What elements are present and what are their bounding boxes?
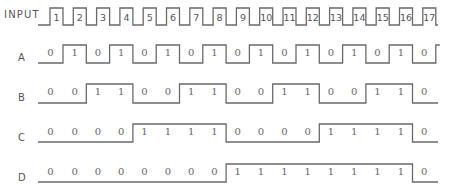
pulse-number: 3 [100,12,106,23]
bit-value: 1 [304,86,310,97]
pulse-number: 4 [123,12,129,23]
row-label: A [18,52,25,63]
bit-value: 0 [421,86,427,97]
bit-value: 0 [95,166,101,177]
bit-value: 1 [398,126,404,137]
row-label: C [18,132,25,143]
bit-value: 1 [165,47,171,58]
bit-value: 1 [165,126,171,137]
bit-value: 0 [118,126,124,137]
bit-value: 0 [211,166,217,177]
bit-value: 0 [47,47,53,58]
bit-value: 1 [398,86,404,97]
pulse-number: 11 [283,12,295,23]
timing-diagram: INPUT 1234567891011121314151617 A0101010… [0,0,451,193]
bit-value: 1 [374,166,380,177]
bit-value: 1 [258,47,264,58]
bit-value: 1 [188,86,194,97]
bit-value: 1 [374,86,380,97]
bit-value: 0 [165,86,171,97]
bit-value: 1 [351,166,357,177]
bit-value: 0 [258,86,264,97]
bit-value: 0 [165,166,171,177]
bit-value: 0 [328,47,334,58]
row-label: D [18,172,26,183]
pulse-number: 10 [260,12,272,23]
bit-value: 0 [71,166,77,177]
bit-value: 1 [281,86,287,97]
bit-value: 1 [281,166,287,177]
bit-value: 0 [95,126,101,137]
bit-value: 1 [118,47,124,58]
bit-value: 0 [71,126,77,137]
pulse-number: 12 [307,12,319,23]
bit-value: 1 [118,86,124,97]
input-clock-row: INPUT 1234567891011121314151617 [4,8,438,25]
bit-value: 0 [304,126,310,137]
bit-value: 1 [328,166,334,177]
bit-value: 0 [47,126,53,137]
bit-value: 0 [421,126,427,137]
pulse-number: 5 [147,12,153,23]
bit-value: 0 [235,126,241,137]
bit-value: 1 [141,126,147,137]
bit-value: 0 [421,47,427,58]
bit-value: 1 [211,86,217,97]
bit-value: 0 [235,86,241,97]
bit-value: 1 [71,47,77,58]
bit-value: 0 [235,47,241,58]
output-rows: A01010101010101010B00110011001100110C000… [18,45,440,183]
pulse-number: 17 [423,12,435,23]
bit-value: 0 [258,126,264,137]
bit-value: 0 [71,86,77,97]
row-a: A01010101010101010 [18,45,440,63]
bit-value: 0 [188,47,194,58]
bit-value: 1 [328,126,334,137]
bit-value: 0 [118,166,124,177]
bit-value: 0 [188,166,194,177]
bit-value: 0 [281,126,287,137]
bit-value: 1 [211,47,217,58]
pulse-number: 2 [77,12,83,23]
bit-value: 1 [235,166,241,177]
bit-value: 1 [258,166,264,177]
bit-value: 1 [95,86,101,97]
pulse-number: 1 [53,12,59,23]
bit-value: 1 [398,47,404,58]
pulse-number: 13 [330,12,342,23]
bit-value: 0 [95,47,101,58]
pulse-numbers: 1234567891011121314151617 [53,12,435,23]
pulse-number: 6 [170,12,176,23]
pulse-number: 14 [353,12,365,23]
bit-value: 1 [304,166,310,177]
input-label: INPUT [4,9,40,20]
pulse-number: 7 [193,12,199,23]
row-d: D00000000111111110 [18,164,438,183]
pulse-number: 9 [240,12,246,23]
bit-value: 1 [351,47,357,58]
row-label: B [18,92,25,103]
bit-value: 1 [351,126,357,137]
bit-value: 0 [328,86,334,97]
bit-value: 1 [374,126,380,137]
bit-value: 1 [398,166,404,177]
bit-value: 1 [304,47,310,58]
bit-value: 0 [47,166,53,177]
pulse-number: 8 [217,12,223,23]
row-b: B00110011001100110 [18,84,438,103]
row-c: C00001111000011110 [18,124,438,143]
bit-value: 0 [281,47,287,58]
bit-value: 0 [141,47,147,58]
bit-value: 0 [141,166,147,177]
bit-value: 1 [188,126,194,137]
bit-value: 0 [351,86,357,97]
bit-value: 1 [211,126,217,137]
pulse-number: 16 [400,12,412,23]
bit-value: 0 [374,47,380,58]
bit-value: 0 [421,166,427,177]
pulse-number: 15 [377,12,389,23]
bit-value: 0 [47,86,53,97]
bit-value: 0 [141,86,147,97]
